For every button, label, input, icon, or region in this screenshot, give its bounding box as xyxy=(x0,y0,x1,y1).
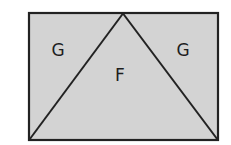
region-label-center: F xyxy=(115,67,125,84)
region-label-right: G xyxy=(176,42,189,59)
region-label-left: G xyxy=(51,42,64,59)
diagram-canvas: G F G xyxy=(0,0,231,145)
